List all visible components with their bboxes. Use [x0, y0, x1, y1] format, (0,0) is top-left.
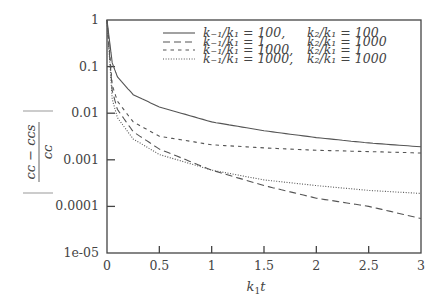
- y-tick-label: 0.001: [63, 152, 99, 167]
- legend: k₋₁/k₁ = 100,k₂/k₁ = 100k₋₁/k₁ = 1,k₂/k₁…: [163, 25, 387, 66]
- x-axis: 00.511.522.53: [103, 246, 425, 273]
- svg-text:cᴄ − cᴄs: cᴄ − cᴄs: [23, 124, 38, 179]
- y-tick-label: 1e-05: [64, 245, 99, 260]
- x-axis-title: k1t: [247, 279, 267, 296]
- y-tick-label: 0.0001: [55, 198, 99, 213]
- x-tick-label: 1: [208, 258, 216, 273]
- x-tick-label: 0.5: [149, 258, 169, 273]
- y-axis-title: cᴄ − cᴄs cᴄ: [23, 111, 55, 193]
- svg-text:cᴄ: cᴄ: [40, 144, 55, 159]
- legend-label-left: k₋₁/k₁ = 1000,: [203, 51, 293, 66]
- y-tick-label: 1: [91, 12, 99, 27]
- x-tick-label: 3: [417, 258, 425, 273]
- x-tick-label: 2: [312, 258, 320, 273]
- y-tick-label: 0.1: [79, 59, 99, 74]
- chart: 10.10.010.0010.00011e-05 00.511.522.53 k…: [0, 0, 445, 307]
- x-tick-label: 1.5: [254, 258, 274, 273]
- legend-label-right: k₂/k₁ = 1000: [307, 51, 387, 66]
- y-axis: 10.10.010.0010.00011e-05: [55, 12, 115, 260]
- x-tick-label: 2.5: [359, 258, 379, 273]
- x-tick-label: 0: [103, 258, 111, 273]
- y-tick-label: 0.01: [71, 105, 99, 120]
